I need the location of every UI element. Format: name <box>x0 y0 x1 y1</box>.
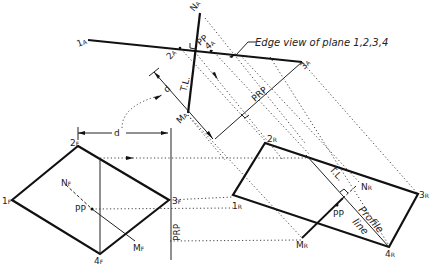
label-2f: 2F <box>70 138 80 148</box>
normal-line-a <box>188 13 200 113</box>
label-4r: 4R <box>385 249 395 259</box>
label-mr: MR <box>296 240 308 250</box>
nm-line-front <box>92 209 135 241</box>
label-mf: MF <box>133 243 145 253</box>
auxiliary-view: 1A 2A 3A 4A NA MA PP T.L. d PRP Edge vie… <box>75 0 388 139</box>
label-d-front: d <box>114 128 120 138</box>
front-plane <box>12 146 169 254</box>
descriptive-geometry-drawing: 1A 2A 3A 4A NA MA PP T.L. d PRP Edge vie… <box>0 0 433 266</box>
label-tl-right: T.L. <box>327 164 345 183</box>
front-view: 2F 3F 4F 1F NF MF PP d PRP <box>2 127 182 266</box>
label-1a: 1A <box>75 36 89 49</box>
diagram-canvas: 1A 2A 3A 4A NA MA PP T.L. d PRP Edge vie… <box>0 0 433 266</box>
label-prp-front: PRP <box>172 223 182 241</box>
label-2r: 2R <box>267 134 277 144</box>
label-1f: 1F <box>2 196 12 206</box>
callout-edge-view: Edge view of plane 1,2,3,4 <box>255 37 388 48</box>
right-plane <box>233 143 418 247</box>
label-3a: 3A <box>298 57 313 72</box>
label-nr: NR <box>361 182 372 192</box>
label-3f: 3F <box>172 196 182 206</box>
label-nf: NF <box>61 178 72 188</box>
right-angle-mark-r <box>340 189 348 193</box>
label-d-aux: d <box>161 83 172 94</box>
label-3r: 3R <box>419 190 429 200</box>
label-na: NA <box>188 0 203 13</box>
right-view: 2R 3R 4R 1R NR MR PP T.L. Profile line <box>232 134 429 259</box>
label-pp-right: PP <box>333 209 344 219</box>
label-pp-front: PP <box>75 204 86 214</box>
label-1r: 1R <box>232 201 242 211</box>
label-4f: 4F <box>94 256 104 266</box>
